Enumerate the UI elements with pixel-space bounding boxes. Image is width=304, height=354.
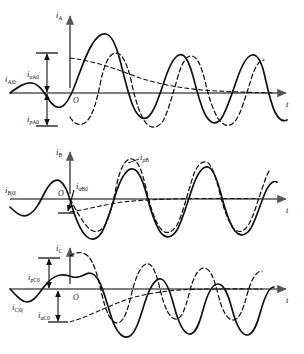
short-circuit-waveform-figure: iA O t iαA0 ipA0 iA|0| iB O t — [0, 0, 304, 354]
aperiodic-component-c — [70, 289, 262, 322]
label-aperiodic-a0: iαA0 — [27, 69, 39, 80]
label-aperiodic-b0: iαB0 — [76, 181, 88, 192]
time-label-c: t — [286, 295, 289, 305]
label-periodic-a0: ipA0 — [27, 114, 39, 125]
origin-label-a: O — [73, 96, 79, 105]
panel-phase-c: iC O t ipC0 iαC0 iC|0| — [10, 243, 289, 337]
origin-label-b: O — [58, 189, 64, 198]
label-initial-current-b: iB|0| — [5, 185, 16, 196]
axis-label-ia: iA — [56, 10, 62, 21]
label-initial-current-c: iC|0| — [12, 302, 23, 313]
panel-phase-b: iB O t iαB0 iB|0| ipB — [5, 147, 289, 239]
time-label-b: t — [286, 205, 289, 215]
label-periodic-b: ipB — [140, 152, 149, 163]
panel-phase-a: iA O t iαA0 ipA0 iA|0| — [5, 10, 289, 127]
origin-label-c: O — [73, 293, 79, 302]
total-current-a — [10, 34, 287, 123]
axis-label-ic: iC — [56, 243, 62, 254]
aperiodic-component-b — [70, 198, 258, 212]
axis-label-ib: iB — [56, 147, 62, 158]
total-current-c — [10, 273, 274, 337]
label-initial-current-a: iA|0| — [5, 74, 16, 85]
label-periodic-c0: ipC0 — [28, 272, 40, 283]
label-aperiodic-c0: iαC0 — [38, 310, 50, 321]
time-label-a: t — [286, 99, 289, 109]
periodic-component-b — [70, 159, 270, 233]
